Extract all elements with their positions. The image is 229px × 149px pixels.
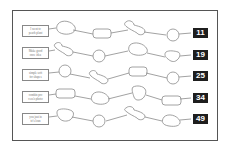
heart-blob-shape (165, 51, 180, 62)
heart-blob-shape (57, 109, 74, 121)
answer-badge-4: 34 (193, 93, 208, 103)
clue-label-2: Make good once idea (22, 47, 49, 59)
blob-shape (129, 43, 148, 55)
circle-shape (93, 50, 105, 62)
clue-line: to's loan (23, 119, 48, 123)
peanut-shape (54, 43, 73, 56)
shape-row-3 (49, 65, 191, 84)
peanut-shape (125, 107, 145, 120)
answer-badge-5: 49 (193, 114, 208, 124)
heart-blob-shape (132, 86, 146, 100)
clue-line: cess's photo (23, 97, 48, 101)
answer-badge-2: 19 (193, 50, 208, 60)
rounded-rect-shape (56, 89, 75, 98)
circle-shape (167, 29, 179, 41)
shape-row-5 (49, 107, 191, 127)
rounded-rect-shape (93, 29, 111, 38)
blob-shape (91, 92, 109, 104)
clue-line: once idea (23, 53, 48, 57)
answer-badge-1: 11 (193, 28, 208, 38)
clue-label-1: I went to peach plant (22, 25, 49, 37)
circle-shape (93, 115, 105, 127)
blob-shape (162, 115, 180, 126)
clue-label-4: combin pro cess's photo (22, 91, 49, 103)
clue-line: peach plant (23, 31, 48, 35)
rounded-rect-shape (162, 96, 181, 105)
peanut-shape (89, 71, 108, 84)
shape-row-2 (49, 43, 191, 62)
rounded-rect-shape (129, 67, 147, 76)
circle-shape (167, 72, 179, 84)
circle-shape (59, 65, 71, 77)
answer-badge-3: 25 (193, 71, 208, 81)
clue-label-5: you just in to's loan (22, 113, 49, 125)
shape-row-1 (49, 21, 191, 41)
shape-row-4 (49, 86, 191, 105)
peanut-shape (125, 21, 145, 35)
clue-label-3: simple soft for shapes (22, 69, 49, 81)
clue-line: for shapes (23, 75, 48, 79)
connector-line (49, 93, 191, 100)
blob-shape (57, 21, 76, 34)
